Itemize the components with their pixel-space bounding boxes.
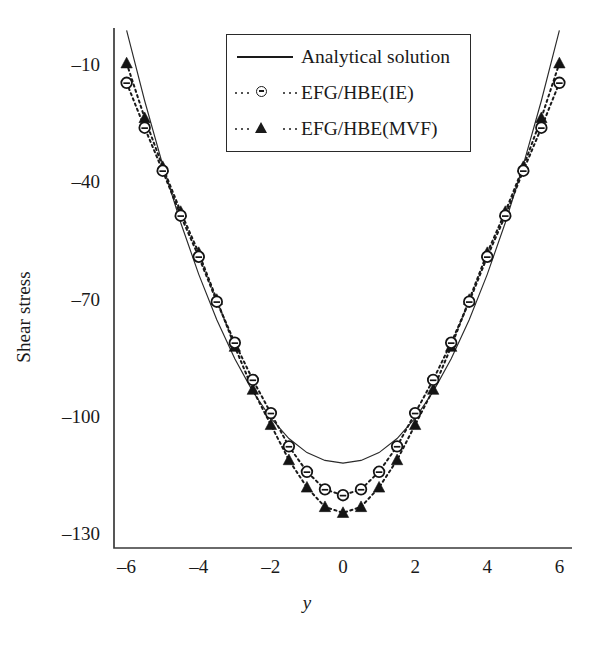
data-point-marker-triangle <box>373 481 384 492</box>
x-tick-label: 0 <box>321 556 365 578</box>
x-axis-label-text: y <box>299 592 311 613</box>
legend-label-analytical: Analytical solution <box>301 46 450 68</box>
y-tick-label: –10 <box>36 54 100 76</box>
solid-line-key-icon <box>227 39 301 75</box>
x-tick-label: 4 <box>465 556 509 578</box>
y-axis-label: Shear stress <box>13 227 35 407</box>
x-tick-label: 2 <box>393 556 437 578</box>
y-tick-label: –70 <box>36 289 100 311</box>
x-axis-label: y <box>0 592 610 614</box>
x-tick-label: –2 <box>249 556 293 578</box>
figure-container: Shear stress y –10–40–70–100–130 –6–4–20… <box>0 0 610 652</box>
legend-label-efg-hbe-ie: EFG/HBE(IE) <box>301 82 414 104</box>
dotted-open-circle-key-icon <box>227 75 301 111</box>
x-tick-label: –4 <box>177 556 221 578</box>
data-point-marker-triangle <box>554 57 565 68</box>
data-point-marker-triangle <box>391 454 402 465</box>
data-point-marker-triangle <box>283 454 294 465</box>
x-tick-label: –6 <box>105 556 149 578</box>
dotted-filled-triangle-key-icon <box>227 111 301 147</box>
legend-entry-analytical: Analytical solution <box>227 39 472 75</box>
x-tick-label: 6 <box>537 556 581 578</box>
y-tick-label: –130 <box>36 523 100 545</box>
legend-label-efg-hbe-mvf: EFG/HBE(MVF) <box>301 118 438 140</box>
legend: Analytical solution EFG/HBE(IE) EFG/HBE(… <box>226 34 471 152</box>
y-tick-label: –100 <box>36 406 100 428</box>
data-point-marker-triangle <box>121 57 132 68</box>
legend-entry-efg-hbe-ie: EFG/HBE(IE) <box>227 75 472 111</box>
y-tick-label: –40 <box>36 171 100 193</box>
legend-entry-efg-hbe-mvf: EFG/HBE(MVF) <box>227 111 472 147</box>
